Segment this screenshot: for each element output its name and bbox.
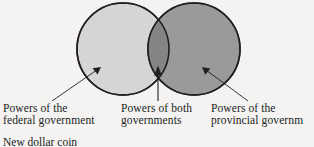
label-both-line1: Powers of both bbox=[121, 102, 192, 114]
label-provincial-line1: Powers of the bbox=[211, 102, 303, 114]
label-federal-line1: Powers of the bbox=[3, 102, 95, 114]
label-both-powers: Powers of both governments bbox=[121, 102, 192, 126]
label-both-line2: governments bbox=[121, 114, 192, 126]
label-federal-line2: federal government bbox=[3, 114, 95, 126]
caption-next-figure: New dollar coin bbox=[3, 136, 77, 147]
label-provincial-line2: provincial governm bbox=[211, 114, 303, 126]
figure-container: Powers of the federal government Powers … bbox=[0, 0, 314, 147]
label-provincial-powers: Powers of the provincial governm bbox=[211, 102, 303, 126]
label-federal-powers: Powers of the federal government bbox=[3, 102, 95, 126]
